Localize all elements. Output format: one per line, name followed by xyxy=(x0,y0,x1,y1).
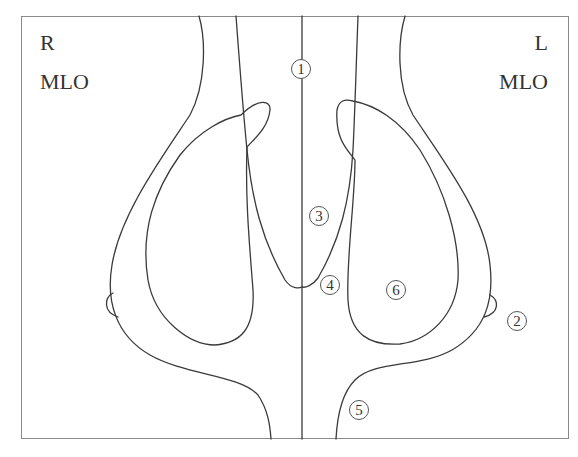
marker-3: 3 xyxy=(309,206,329,226)
marker-6: 6 xyxy=(386,280,406,300)
right-outer-skin-contour xyxy=(110,16,271,439)
right-projection-label: MLO xyxy=(40,71,89,93)
left-nipple xyxy=(484,295,496,317)
left-side-label: L xyxy=(535,32,548,54)
right-side-label: R xyxy=(40,32,55,54)
marker-1: 1 xyxy=(291,59,311,79)
left-outer-skin-contour xyxy=(336,16,491,439)
marker-5: 5 xyxy=(349,400,369,420)
marker-4: 4 xyxy=(320,275,340,295)
marker-2: 2 xyxy=(507,311,527,331)
left-glandular-outline xyxy=(337,100,458,344)
right-pectoral-line xyxy=(236,16,302,288)
left-projection-label: MLO xyxy=(499,71,548,93)
right-glandular-outline xyxy=(146,102,270,345)
